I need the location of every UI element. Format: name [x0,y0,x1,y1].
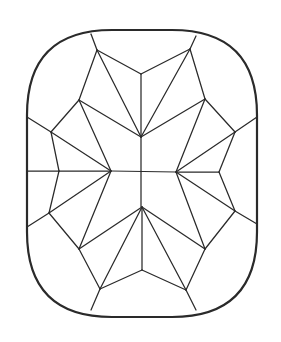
facet-line [51,132,59,171]
facet-line [27,213,49,227]
facet-line [79,50,97,100]
facet-line [190,36,196,49]
facet-lines [27,34,257,310]
facet-line [235,211,257,224]
facet-line [176,172,235,211]
facet-line [176,172,205,249]
facet-line [91,34,97,50]
facet-line [100,270,142,289]
facet-line [141,99,205,137]
facet-line [79,207,142,249]
facet-line [235,117,257,132]
facet-line [205,99,235,132]
gem-facet-drawing [0,0,281,342]
facet-line [91,289,100,310]
gemstone-diagram [0,0,281,342]
facet-line [205,211,235,249]
facet-line [176,132,235,172]
facet-line [79,171,111,249]
facet-line [79,249,100,289]
facet-line [186,249,205,290]
facet-line [49,171,111,213]
facet-line [142,207,205,249]
facet-line [49,213,79,249]
facet-line [190,49,205,99]
facet-line [111,171,176,172]
facet-line [186,290,196,310]
facet-line [142,207,186,290]
facet-line [176,99,205,172]
facet-line [51,100,79,132]
facet-line [100,207,142,289]
facet-line [27,117,51,132]
facet-line [142,270,186,290]
